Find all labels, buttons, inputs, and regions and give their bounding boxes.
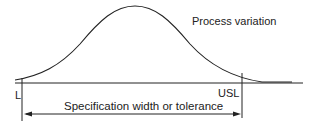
- arrowhead-left-icon: [24, 112, 32, 117]
- process-variation-diagram: Process variation L USL Specification wi…: [0, 0, 314, 127]
- tolerance-label: Specification width or tolerance: [64, 101, 223, 113]
- upper-limit-label: USL: [218, 88, 239, 99]
- curve-label: Process variation: [192, 16, 276, 27]
- arrowhead-right-icon: [233, 112, 241, 117]
- lower-limit-label: L: [15, 90, 21, 101]
